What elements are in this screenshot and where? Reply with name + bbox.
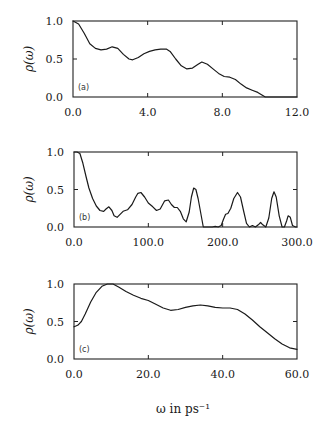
series-line-rho: [74, 152, 297, 227]
series-line-rho: [73, 21, 297, 97]
plot-frame: [73, 21, 297, 97]
y-axis-label: ρ(ω): [22, 308, 36, 336]
y-tick-label: 1.0: [46, 15, 64, 28]
x-axis-label: ω in ps⁻¹: [156, 402, 210, 416]
x-tick-label: 200.0: [207, 236, 239, 249]
panel-a: 0.04.08.012.00.00.51.0ρ(ω)(a): [22, 15, 309, 119]
chart-figure: 0.04.08.012.00.00.51.0ρ(ω)(a)0.0100.0200…: [0, 0, 329, 431]
y-tick-label: 1.0: [47, 146, 65, 159]
x-tick-label: 60.0: [285, 368, 310, 381]
x-tick-label: 20.0: [136, 368, 161, 381]
y-tick-label: 0.5: [46, 53, 64, 66]
y-tick-label: 0.0: [47, 221, 65, 234]
y-axis-label: ρ(ω): [22, 176, 36, 204]
x-tick-label: 40.0: [210, 368, 235, 381]
x-tick-label: 0.0: [65, 368, 83, 381]
y-tick-label: 0.5: [47, 316, 65, 329]
x-tick-label: 12.0: [285, 106, 310, 119]
x-tick-label: 4.0: [139, 106, 157, 119]
y-axis-label: ρ(ω): [22, 46, 36, 74]
panel-c: 0.020.040.060.00.00.51.0ρ(ω)(c): [22, 278, 309, 381]
y-tick-label: 0.5: [47, 184, 65, 197]
x-tick-label: 100.0: [133, 236, 165, 249]
panel-label: (b): [79, 213, 90, 222]
y-tick-label: 1.0: [47, 278, 65, 291]
y-tick-label: 0.0: [47, 353, 65, 366]
y-tick-label: 0.0: [46, 91, 64, 104]
panel-label: (a): [78, 83, 89, 92]
plot-frame: [74, 152, 297, 227]
panel-b: 0.0100.0200.0300.00.00.51.0ρ(ω)(b): [22, 146, 313, 249]
x-tick-label: 0.0: [64, 106, 82, 119]
panel-label: (c): [79, 345, 90, 354]
x-tick-label: 300.0: [281, 236, 313, 249]
plot-frame: [74, 284, 297, 359]
series-line-rho: [74, 284, 297, 349]
x-tick-label: 0.0: [65, 236, 83, 249]
x-tick-label: 8.0: [214, 106, 232, 119]
